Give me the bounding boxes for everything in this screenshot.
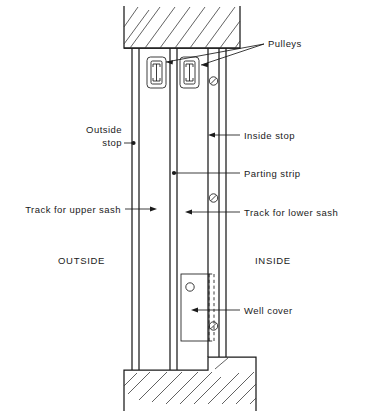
label-inside: INSIDE <box>255 255 291 266</box>
label-track-upper-sash: Track for upper sash <box>25 204 121 215</box>
label-outside-stop-line1: Outside <box>86 124 122 135</box>
screw-top <box>209 77 217 85</box>
well-cover <box>181 274 214 341</box>
pulley-upper-sash <box>147 57 166 88</box>
sill-member <box>124 357 256 411</box>
leader-track-lower-sash <box>185 210 240 215</box>
header-hatching <box>124 7 240 48</box>
label-outside: OUTSIDE <box>58 255 105 266</box>
label-well-cover: Well cover <box>244 305 293 316</box>
label-track-lower-sash: Track for lower sash <box>244 207 338 218</box>
label-inside-stop: Inside stop <box>244 130 295 141</box>
screw-middle <box>209 194 217 202</box>
header-member <box>124 6 240 48</box>
label-outside-stop-line2: stop <box>102 137 122 148</box>
pulley-lower-sash <box>180 57 199 88</box>
label-parting-strip: Parting strip <box>244 168 301 179</box>
diagram-page: Pulleys Outside stop Inside stop Parting… <box>0 0 365 411</box>
leader-inside-stop <box>208 133 240 138</box>
leader-outside-stop <box>124 141 136 145</box>
screw-bottom <box>209 322 217 330</box>
sill-hatching <box>124 358 256 404</box>
label-pulleys: Pulleys <box>268 38 302 49</box>
leader-well-cover <box>191 308 240 313</box>
leader-parting-strip <box>172 171 240 175</box>
window-jamb-section-diagram: Pulleys Outside stop Inside stop Parting… <box>0 0 365 411</box>
leader-track-upper-sash <box>125 207 157 212</box>
well-cover-hole <box>186 283 194 291</box>
